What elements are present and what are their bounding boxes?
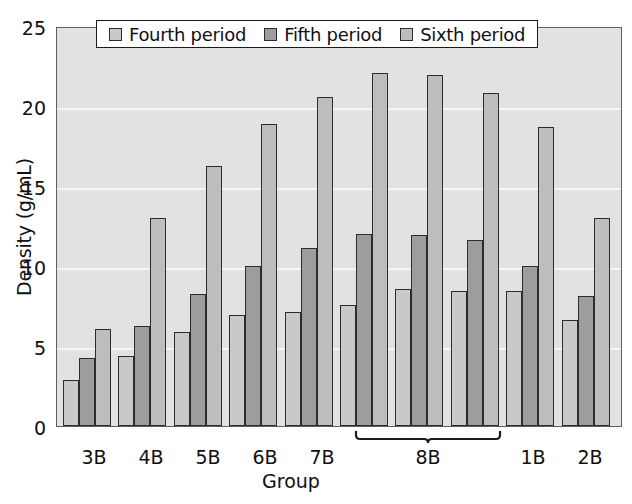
y-tick-label-20: 20: [0, 99, 46, 118]
bar-groups-container: [57, 28, 621, 426]
bar-group: [118, 28, 173, 426]
bar-group: [451, 28, 506, 426]
bar-group: [229, 28, 284, 426]
y-axis-title: Density (g/mL): [13, 27, 35, 427]
bar[interactable]: [451, 291, 467, 426]
bar[interactable]: [190, 294, 206, 426]
bar[interactable]: [578, 296, 594, 426]
bar[interactable]: [301, 248, 317, 426]
legend-item-label: Fourth period: [129, 24, 246, 45]
bar[interactable]: [538, 127, 554, 426]
bar-group: [562, 28, 617, 426]
bar[interactable]: [562, 320, 578, 426]
bar[interactable]: [229, 315, 245, 426]
bar[interactable]: [594, 218, 610, 426]
legend-item-label: Fifth period: [284, 24, 382, 45]
bar[interactable]: [79, 358, 95, 426]
bar-group: [174, 28, 229, 426]
bar[interactable]: [317, 97, 333, 426]
bar[interactable]: [372, 73, 388, 426]
plot-area: [56, 27, 622, 427]
bar[interactable]: [395, 289, 411, 426]
legend-item-2[interactable]: Sixth period: [400, 24, 525, 45]
bar-chart-figure: Density (g/mL) 25 20 15 10 5 0 Fourth pe…: [0, 0, 632, 504]
bar[interactable]: [206, 166, 222, 426]
y-tick-label-25: 25: [0, 19, 46, 38]
bar[interactable]: [467, 240, 483, 426]
x-tick-label-7b: 7B: [284, 446, 360, 468]
bar-group: [63, 28, 118, 426]
legend: Fourth periodFifth periodSixth period: [96, 20, 538, 48]
group-bracket-8b: [354, 430, 502, 444]
bar[interactable]: [261, 124, 277, 426]
bar[interactable]: [483, 93, 499, 426]
bar[interactable]: [522, 266, 538, 426]
y-tick-label-0: 0: [0, 419, 46, 438]
bar[interactable]: [411, 235, 427, 426]
legend-item-label: Sixth period: [420, 24, 525, 45]
legend-swatch-icon: [264, 28, 277, 41]
bar-group: [340, 28, 395, 426]
bar[interactable]: [245, 266, 261, 426]
bar[interactable]: [63, 380, 79, 426]
x-axis-title: Group: [0, 470, 632, 492]
bar[interactable]: [174, 332, 190, 426]
bar-group: [395, 28, 450, 426]
legend-swatch-icon: [400, 28, 413, 41]
bar-group: [285, 28, 340, 426]
bar-group: [506, 28, 561, 426]
bar[interactable]: [118, 356, 134, 426]
y-tick-label-10: 10: [0, 259, 46, 278]
x-tick-label-8b: 8B: [390, 446, 466, 468]
bar[interactable]: [285, 312, 301, 426]
y-tick-label-5: 5: [0, 339, 46, 358]
bar[interactable]: [95, 329, 111, 426]
bar[interactable]: [134, 326, 150, 426]
bar[interactable]: [356, 234, 372, 426]
bar[interactable]: [340, 305, 356, 426]
x-tick-label-2b: 2B: [552, 446, 628, 468]
bar[interactable]: [427, 75, 443, 426]
y-tick-label-15: 15: [0, 179, 46, 198]
legend-item-1[interactable]: Fifth period: [264, 24, 382, 45]
bar[interactable]: [506, 291, 522, 426]
legend-item-0[interactable]: Fourth period: [109, 24, 246, 45]
x-axis-title-text: Group: [262, 470, 320, 492]
legend-swatch-icon: [109, 28, 122, 41]
bar[interactable]: [150, 218, 166, 426]
